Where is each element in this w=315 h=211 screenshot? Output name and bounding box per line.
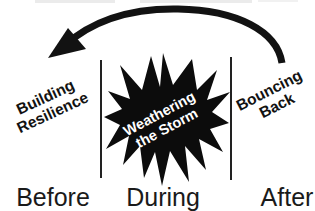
phase-label-after: After	[261, 183, 314, 211]
phase-label-during: During	[126, 183, 200, 211]
top-crop-artifact	[140, 0, 252, 3]
resilience-diagram: Building Resilience Weathering the Storm…	[0, 0, 315, 211]
top-crop-artifact	[258, 0, 298, 2]
top-crop-artifact	[35, 0, 115, 3]
curved-return-arrow-icon	[64, 9, 282, 63]
phase-label-before: Before	[16, 183, 90, 211]
